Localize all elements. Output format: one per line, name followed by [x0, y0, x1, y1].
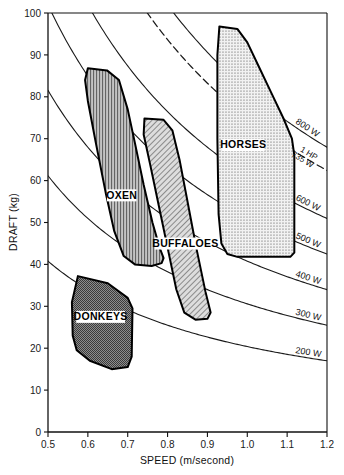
y-tick-label: 0 [35, 427, 41, 438]
region-label-oxen: OXEN [106, 189, 137, 201]
y-axis-title: DRAFT (kg) [7, 193, 19, 251]
y-tick-label: 20 [30, 343, 42, 354]
x-tick-label: 0.8 [161, 439, 175, 450]
y-tick-label: 70 [30, 133, 42, 144]
chart-svg: 0102030405060708090100 0.50.60.70.80.91.… [0, 0, 344, 475]
x-axis-title: SPEED (m/second) [140, 454, 234, 466]
x-tick-label: 1.0 [240, 439, 254, 450]
y-tick-label: 60 [30, 175, 42, 186]
y-tick-label: 40 [30, 259, 42, 270]
y-tick-label: 80 [30, 91, 42, 102]
y-tick-label: 10 [30, 385, 42, 396]
x-tick-label: 1.1 [280, 439, 294, 450]
y-tick-label: 30 [30, 301, 42, 312]
draft-vs-speed-chart: 0102030405060708090100 0.50.60.70.80.91.… [0, 0, 344, 475]
x-tick-label: 0.7 [121, 439, 135, 450]
x-tick-label: 0.9 [200, 439, 214, 450]
y-tick-label: 90 [30, 50, 42, 61]
region-label-donkeys: DONKEYS [74, 310, 128, 322]
region-label-buffaloes: BUFFALOES [152, 237, 218, 249]
x-tick-label: 1.2 [320, 439, 334, 450]
region-label-horses: HORSES [220, 138, 266, 150]
y-tick-label: 50 [30, 217, 42, 228]
x-tick-label: 0.5 [41, 439, 55, 450]
y-tick-label: 100 [24, 8, 41, 19]
x-tick-label: 0.6 [81, 439, 95, 450]
